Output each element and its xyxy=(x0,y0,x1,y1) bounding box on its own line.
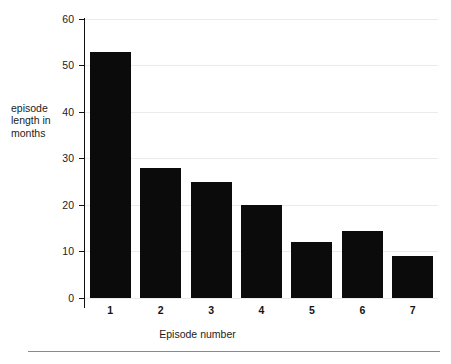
y-tick-label-30: 30 xyxy=(44,152,74,164)
y-tick-label-text: 20 xyxy=(48,199,74,211)
x-tick-label-text: 4 xyxy=(236,303,286,317)
bar-2 xyxy=(140,168,181,298)
x-tick-label-3: 3 xyxy=(186,303,236,317)
x-tick-label-text: 5 xyxy=(287,303,337,317)
bar-4 xyxy=(241,205,282,298)
y-tick-label-60: 60 xyxy=(44,13,74,25)
gridline-30 xyxy=(85,158,438,159)
y-tick-label-40: 40 xyxy=(44,106,74,118)
x-tick-label-2: 2 xyxy=(135,303,185,317)
y-tick-label-50: 50 xyxy=(44,59,74,71)
x-tick-label-text: 6 xyxy=(337,303,387,317)
bar-1 xyxy=(90,52,131,298)
y-tick-label-0: 0 xyxy=(44,292,74,304)
x-tick-label-7: 7 xyxy=(388,303,438,317)
x-tick-label-text: 7 xyxy=(388,303,438,317)
y-tick-label-text: 50 xyxy=(48,59,74,71)
gridline-40 xyxy=(85,112,438,113)
y-tick-label-text: 0 xyxy=(48,292,74,304)
y-tick-label-20: 20 xyxy=(44,199,74,211)
bottom-divider xyxy=(28,351,440,352)
bar-3 xyxy=(191,182,232,298)
y-tick-label-text: 40 xyxy=(48,106,74,118)
x-tick-label-6: 6 xyxy=(337,303,387,317)
y-tick-label-10: 10 xyxy=(44,245,74,257)
bar-7 xyxy=(392,256,433,298)
gridline-50 xyxy=(85,65,438,66)
bar-6 xyxy=(342,231,383,298)
gridline-60 xyxy=(85,19,438,20)
x-tick-label-4: 4 xyxy=(236,303,286,317)
x-tick-label-text: 2 xyxy=(135,303,185,317)
y-tick-label-text: 30 xyxy=(48,152,74,164)
plot-area xyxy=(85,19,438,298)
bar-5 xyxy=(291,242,332,298)
x-tick-label-text: 3 xyxy=(186,303,236,317)
y-tick-label-text: 10 xyxy=(48,245,74,257)
x-tick-label-5: 5 xyxy=(287,303,337,317)
y-tick-label-text: 60 xyxy=(48,13,74,25)
x-tick-label-1: 1 xyxy=(85,303,135,317)
x-tick-label-text: 1 xyxy=(85,303,135,317)
x-axis-title: Episode number xyxy=(0,328,451,340)
bar-chart-figure: episode length in months 0102030405060 1… xyxy=(0,0,451,364)
